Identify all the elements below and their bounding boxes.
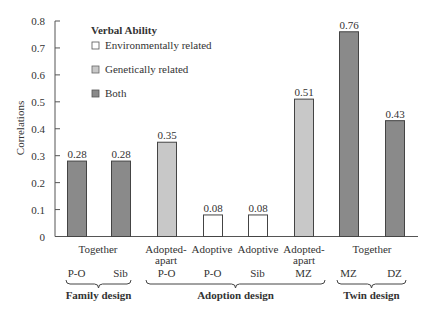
group-label: Twin design	[343, 289, 399, 301]
bar-value-label: 0.08	[248, 202, 268, 214]
y-tick-label: 0.1	[31, 204, 45, 216]
bar	[386, 121, 405, 237]
category-label-line2: apart	[155, 254, 177, 266]
y-tick-label: 0.8	[31, 15, 45, 27]
group-brace	[66, 280, 131, 288]
relation-label: Sib	[113, 267, 128, 279]
y-tick-label: 0.3	[31, 150, 45, 162]
group-brace	[146, 280, 325, 288]
y-tick-label: 0.2	[31, 177, 45, 189]
group-brace	[337, 280, 406, 288]
design-groups: Family designAdoption designTwin design	[66, 280, 406, 301]
relation-label: Sib	[250, 267, 265, 279]
legend-swatch-environmental	[92, 42, 99, 49]
category-label: Together	[79, 243, 118, 255]
category-label: Adoptive	[238, 243, 279, 255]
relation-label: P-O	[68, 267, 86, 279]
x-axis-labels: TogetherAdopted-apartAdoptiveAdoptiveAdo…	[68, 243, 402, 279]
bar-value-label: 0.51	[294, 86, 313, 98]
relation-label: P-O	[158, 267, 176, 279]
bar-chart: Correlations 00.10.20.30.40.50.60.70.8 0…	[0, 0, 435, 323]
group-label: Adoption design	[197, 289, 274, 301]
legend-swatch-both	[92, 90, 99, 97]
group-label: Family design	[66, 289, 132, 301]
bar	[204, 215, 223, 237]
bar	[68, 161, 87, 236]
category-label: Adoptive	[192, 243, 233, 255]
bar	[340, 32, 359, 237]
bar-value-label: 0.35	[157, 129, 177, 141]
bar-value-label: 0.08	[203, 202, 223, 214]
y-tick-label: 0	[40, 231, 46, 243]
bar	[112, 161, 131, 236]
relation-label: P-O	[204, 267, 222, 279]
bar-value-label: 0.43	[385, 108, 405, 120]
y-axis: 00.10.20.30.40.50.60.70.8	[31, 15, 418, 243]
legend-label-both: Both	[105, 87, 127, 99]
relation-label: MZ	[295, 267, 312, 279]
relation-label: MZ	[340, 267, 357, 279]
y-tick-label: 0.6	[31, 69, 45, 81]
bars: 0.280.280.350.080.080.510.760.43	[67, 19, 405, 237]
y-tick-label: 0.5	[31, 96, 45, 108]
legend-label-environmental: Environmentally related	[105, 39, 212, 51]
legend-label-genetic: Genetically related	[105, 63, 189, 75]
legend-title: Verbal Ability	[91, 24, 157, 36]
category-label: Together	[353, 243, 392, 255]
legend: Verbal Ability Environmentally related G…	[91, 24, 212, 99]
bar-value-label: 0.28	[67, 148, 87, 160]
y-tick-label: 0.7	[31, 42, 45, 54]
y-tick-label: 0.4	[31, 123, 45, 135]
bar	[158, 142, 177, 236]
relation-label: DZ	[387, 267, 402, 279]
bar	[295, 99, 314, 236]
y-axis-label: Correlations	[14, 101, 26, 155]
bar-value-label: 0.28	[111, 148, 131, 160]
bar	[249, 215, 268, 237]
category-label-line2: apart	[293, 254, 315, 266]
legend-swatch-genetic	[92, 66, 99, 73]
bar-value-label: 0.76	[339, 19, 359, 31]
